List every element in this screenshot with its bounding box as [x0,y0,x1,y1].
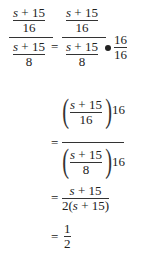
rhs-numerator-fraction: s + 15 16 [66,6,98,35]
lhs-den-num: s + 15 [13,40,45,54]
rhs-den-den: 8 [79,55,86,69]
line3-num: s + 15 [70,184,102,198]
lhs-num-den: 16 [23,21,36,35]
lhs-denominator-fraction: s + 15 8 [13,40,45,69]
rhs-denominator-fraction: s + 15 8 [66,40,98,69]
equals-sign: = [51,230,58,244]
line2-top-num: s + 15 [70,98,102,112]
multiplier-fraction: 16 16 [114,33,127,62]
lhs-numerator-fraction: s + 15 16 [13,6,45,35]
line2-bottom-fraction: s + 15 8 [70,148,102,177]
equals-sign: = [51,40,58,54]
line3-fraction: s + 15 2(s + 15) [62,184,109,213]
line2-top-den: 16 [79,113,92,127]
rhs-num-num: s + 15 [66,6,98,20]
line2-top-fraction: s + 15 16 [70,98,102,127]
multiplier-num: 16 [114,33,127,47]
rhs-compound-fraction: s + 15 16 s + 15 8 [62,6,102,69]
multiply-dot [105,45,111,51]
rhs-den-num: s + 15 [66,40,98,54]
multiplier-den: 16 [114,48,127,62]
main-fraction-bar [9,37,53,38]
line2-bottom-den: 8 [83,163,90,177]
main-fraction-bar [62,142,124,143]
line2-bottom-num: s + 15 [70,148,102,162]
equals-sign: = [51,191,58,205]
line4-num: 1 [64,222,71,236]
left-paren: ( [62,144,69,178]
equals-sign: = [51,136,58,150]
line4-den: 2 [64,237,71,251]
main-fraction-bar [62,37,106,38]
lhs-num-num: s + 15 [13,6,45,20]
lhs-den-den: 8 [26,55,33,69]
line4-fraction: 1 2 [64,222,71,251]
lhs-compound-fraction: s + 15 16 s + 15 8 [9,6,49,69]
rhs-num-den: 16 [76,21,89,35]
left-paren: ( [62,94,69,128]
line2-bottom-factor: 16 [112,155,125,169]
line2-top-factor: 16 [112,103,125,117]
line3-den: 2(s + 15) [62,199,109,213]
